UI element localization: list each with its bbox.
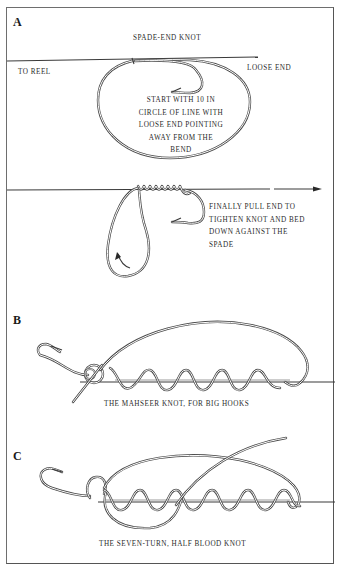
finish-loop bbox=[107, 188, 148, 276]
pull-arrow-icon bbox=[313, 187, 322, 192]
start-loop bbox=[98, 60, 250, 158]
arc-loop bbox=[100, 322, 308, 386]
lower-loop bbox=[105, 492, 182, 528]
spiral-turns bbox=[110, 368, 280, 390]
hook-icon bbox=[41, 468, 90, 496]
hook-icon bbox=[38, 344, 88, 375]
hook-icon bbox=[132, 58, 202, 93]
wraps bbox=[138, 186, 190, 194]
spade-end-finish-diagram bbox=[7, 186, 322, 276]
tag-end bbox=[176, 438, 286, 505]
half-blood-knot-diagram bbox=[41, 438, 335, 528]
mahseer-knot-diagram bbox=[38, 322, 335, 402]
knot-illustrations bbox=[0, 0, 343, 572]
spade-end-start-diagram bbox=[7, 57, 258, 158]
